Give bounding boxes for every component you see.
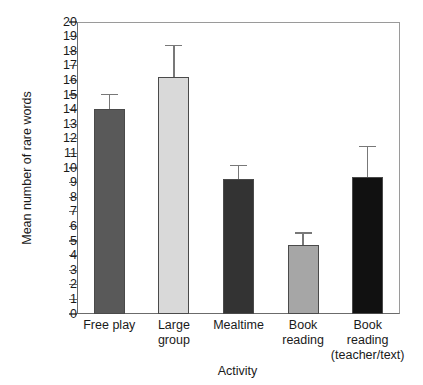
error-bar-cap	[230, 165, 247, 166]
x-axis-tick-label-line: group	[131, 333, 218, 348]
bar-group[interactable]	[288, 22, 319, 314]
y-axis-tick-label: 10	[15, 162, 77, 174]
error-bar-cap	[165, 45, 182, 46]
error-bar-line	[109, 94, 110, 109]
y-axis-tick-label: 11	[15, 147, 77, 159]
error-bar-cap	[359, 146, 376, 147]
y-axis-tick-label: 19	[15, 30, 77, 42]
bar-group[interactable]	[223, 22, 254, 314]
bar-chart-figure: Mean number of rare words 20191817161514…	[0, 0, 423, 385]
y-axis-tick-label: 12	[15, 132, 77, 144]
y-axis-tick-label: 20	[15, 16, 77, 28]
bar[interactable]	[94, 109, 125, 314]
x-axis-tick-label-line: (teacher/text)	[324, 348, 411, 363]
error-bar-line	[173, 45, 174, 78]
bar-group[interactable]	[158, 22, 189, 314]
error-bar-line	[302, 232, 303, 245]
y-axis-tick-label: 16	[15, 74, 77, 86]
x-axis-title: Activity	[75, 364, 400, 378]
bar[interactable]	[158, 77, 189, 314]
x-axis-tick-label-line: reading	[324, 333, 411, 348]
bars-layer	[77, 22, 400, 314]
bar[interactable]	[352, 177, 383, 314]
y-axis-tick-label: 6	[15, 220, 77, 232]
y-axis-tick-label: 18	[15, 45, 77, 57]
y-axis-tick-label: 9	[15, 176, 77, 188]
y-axis-tick-label: 15	[15, 89, 77, 101]
y-axis-tick-label: 8	[15, 191, 77, 203]
error-bar-line	[238, 165, 239, 179]
error-bar-cap	[295, 232, 312, 233]
y-axis-tick-label: 14	[15, 103, 77, 115]
bar-group[interactable]	[352, 22, 383, 314]
y-axis-tick-label: 1	[15, 293, 77, 305]
y-axis-tick-label: 5	[15, 235, 77, 247]
error-bar-cap	[101, 94, 118, 95]
y-axis-tick-label: 3	[15, 264, 77, 276]
bar-group[interactable]	[94, 22, 125, 314]
y-axis-tick-label: 17	[15, 59, 77, 71]
y-axis-tick-label: 7	[15, 205, 77, 217]
y-axis-tick-label: 4	[15, 249, 77, 261]
error-bar-line	[367, 146, 368, 177]
y-axis-tick-label: 2	[15, 278, 77, 290]
bar[interactable]	[223, 179, 254, 314]
x-axis-tick-labels: Free playLargegroupMealtimeBookreadingBo…	[77, 318, 400, 366]
y-axis-tick-label: 13	[15, 118, 77, 130]
x-axis-tick-label-line: Book	[324, 318, 411, 333]
x-axis-tick-label: Bookreading(teacher/text)	[324, 318, 411, 363]
bar[interactable]	[288, 245, 319, 314]
